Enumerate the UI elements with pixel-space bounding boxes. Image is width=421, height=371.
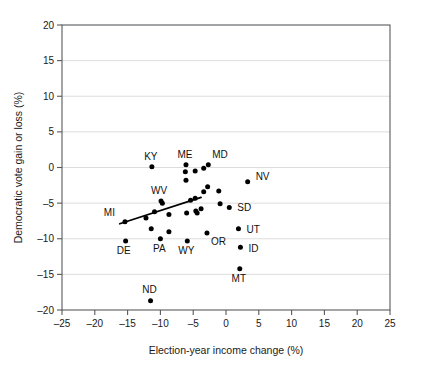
data-point-label: WY: [178, 245, 194, 256]
data-point-label: ME: [177, 149, 192, 160]
data-point: [184, 211, 189, 216]
data-point: [237, 266, 242, 271]
data-point-label: MT: [232, 273, 246, 284]
data-point: [188, 198, 193, 203]
y-tick-label: 5: [48, 126, 54, 137]
data-point-label: PA: [153, 243, 166, 254]
data-point: [195, 211, 200, 216]
data-point: [218, 201, 223, 206]
x-axis: –25–20–15–10–50510152025: [54, 310, 396, 329]
data-points: MIDEKYNDWVPAMEWYMDORSDUTIDMTNV: [104, 149, 270, 304]
data-point: [183, 178, 188, 183]
data-point: [152, 209, 157, 214]
data-point: [206, 162, 211, 167]
y-tick-label: –20: [37, 305, 54, 316]
data-point: [183, 162, 188, 167]
data-point-label: ND: [142, 284, 156, 295]
data-point: [166, 212, 171, 217]
data-point: [149, 226, 154, 231]
data-point-label: ID: [248, 243, 258, 254]
y-tick-label: 0: [48, 162, 54, 173]
data-point-label: KY: [144, 151, 158, 162]
x-tick-label: –5: [188, 318, 200, 329]
y-tick-label: –15: [37, 269, 54, 280]
data-point-label: UT: [246, 224, 259, 235]
data-point: [185, 238, 190, 243]
y-tick-label: –10: [37, 233, 54, 244]
x-tick-label: 20: [352, 318, 364, 329]
data-point: [216, 189, 221, 194]
data-point-label: OR: [211, 236, 226, 247]
data-point: [148, 298, 153, 303]
data-point-label: SD: [237, 202, 251, 213]
data-point: [227, 205, 232, 210]
x-tick-label: –20: [86, 318, 103, 329]
data-point: [238, 245, 243, 250]
x-tick-label: 15: [319, 318, 331, 329]
y-axis: –20–15–10–505101520: [37, 20, 62, 316]
x-tick-label: –25: [54, 318, 71, 329]
data-point: [123, 238, 128, 243]
data-point: [199, 206, 204, 211]
data-point-label: WV: [151, 185, 167, 196]
y-tick-label: 15: [43, 55, 55, 66]
y-tick-label: 10: [43, 91, 55, 102]
x-tick-label: 25: [384, 318, 396, 329]
data-point: [122, 219, 127, 224]
data-point-label: DE: [117, 245, 131, 256]
data-point: [205, 184, 210, 189]
x-tick-label: –15: [119, 318, 136, 329]
y-tick-label: –5: [43, 198, 55, 209]
data-point: [245, 179, 250, 184]
x-tick-label: 5: [256, 318, 262, 329]
data-point-label: MD: [212, 149, 228, 160]
chart-canvas: –20–15–10–505101520–25–20–15–10–50510152…: [0, 0, 421, 371]
data-point: [193, 196, 198, 201]
x-tick-label: 0: [223, 318, 229, 329]
gridlines: [62, 61, 390, 275]
scatter-plot-figure: –20–15–10–505101520–25–20–15–10–50510152…: [0, 0, 421, 371]
data-point: [201, 189, 206, 194]
x-tick-label: –10: [152, 318, 169, 329]
y-tick-label: 20: [43, 20, 55, 31]
x-axis-title: Election-year income change (%): [149, 344, 304, 356]
data-point: [236, 226, 241, 231]
data-point: [160, 201, 165, 206]
data-point: [143, 216, 148, 221]
data-point: [183, 169, 188, 174]
data-point: [193, 169, 198, 174]
data-point-label: NV: [256, 171, 270, 182]
data-point: [158, 236, 163, 241]
data-point: [149, 164, 154, 169]
y-axis-title: Democratic vote gain or loss (%): [12, 92, 24, 244]
data-point-label: MI: [104, 207, 115, 218]
x-tick-label: 10: [286, 318, 298, 329]
data-point: [204, 231, 209, 236]
data-point: [201, 166, 206, 171]
data-point: [166, 229, 171, 234]
